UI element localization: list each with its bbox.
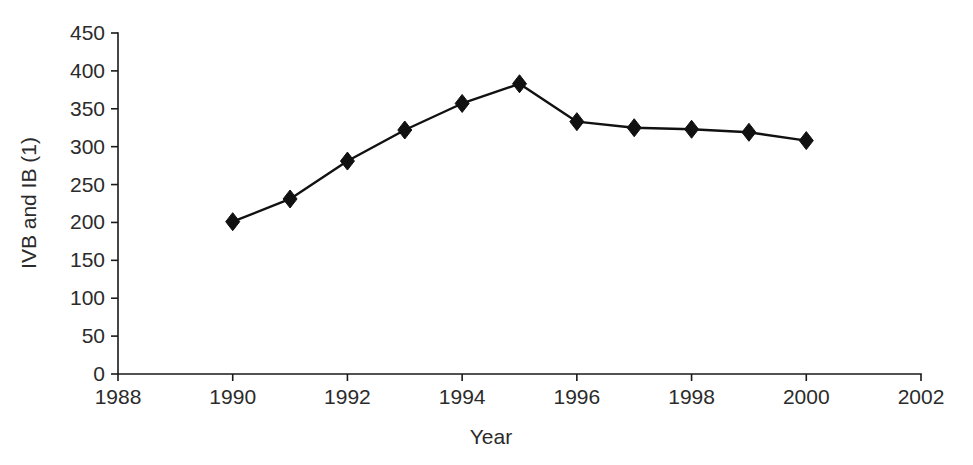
line-chart: 050100150200250300350400450 198819901992… — [0, 0, 973, 465]
data-point-marker-1992 — [340, 152, 354, 170]
y-tick-label: 100 — [70, 286, 105, 309]
y-tick-label: 250 — [70, 173, 105, 196]
data-point-marker-1997 — [627, 119, 641, 137]
x-tick-label: 1998 — [668, 385, 715, 408]
data-point-markers — [226, 75, 814, 231]
data-point-marker-1996 — [570, 113, 584, 131]
series-polyline — [233, 84, 807, 222]
chart-figure: 050100150200250300350400450 198819901992… — [0, 0, 973, 465]
data-point-marker-1990 — [226, 213, 240, 231]
data-point-marker-1991 — [283, 190, 297, 208]
y-tick-label: 150 — [70, 248, 105, 271]
data-point-marker-1993 — [398, 121, 412, 139]
y-tick-label: 300 — [70, 135, 105, 158]
x-tick-label: 2000 — [783, 385, 830, 408]
x-tick-label: 1988 — [95, 385, 142, 408]
data-point-marker-1998 — [685, 120, 699, 138]
data-point-marker-1994 — [455, 94, 469, 112]
x-tick-label: 1992 — [324, 385, 371, 408]
data-series — [233, 84, 807, 222]
x-axis-title: Year — [470, 425, 512, 448]
data-point-marker-2000 — [799, 132, 813, 150]
y-tick-label: 0 — [93, 362, 105, 385]
x-tick-label: 2002 — [898, 385, 945, 408]
data-point-marker-1995 — [513, 75, 527, 93]
y-tick-label: 50 — [82, 324, 105, 347]
y-axis-tick-labels: 050100150200250300350400450 — [70, 21, 105, 385]
y-tick-label: 450 — [70, 21, 105, 44]
y-tick-label: 200 — [70, 210, 105, 233]
data-point-marker-1999 — [742, 123, 756, 141]
y-tick-label: 400 — [70, 59, 105, 82]
x-tick-label: 1990 — [209, 385, 256, 408]
y-tick-label: 350 — [70, 97, 105, 120]
x-tick-label: 1996 — [553, 385, 600, 408]
x-axis-tick-labels: 19881990199219941996199820002002 — [95, 385, 945, 408]
y-axis-title: IVB and IB (1) — [17, 137, 40, 269]
x-tick-label: 1994 — [439, 385, 486, 408]
